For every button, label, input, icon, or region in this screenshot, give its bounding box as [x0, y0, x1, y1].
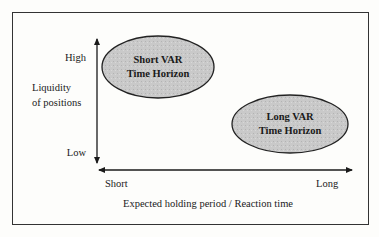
- x-axis-long-label: Long: [316, 178, 338, 190]
- y-axis-title-line1: Liquidity: [32, 82, 71, 94]
- y-axis-low-label: Low: [40, 147, 86, 159]
- long-var-line2: Time Horizon: [240, 124, 340, 138]
- short-var-line1: Short VAR: [108, 53, 208, 67]
- x-axis-title: Expected holding period / Reaction time: [123, 198, 293, 210]
- long-var-line1: Long VAR: [240, 110, 340, 124]
- short-var-label: Short VAR Time Horizon: [108, 53, 208, 81]
- y-axis-title-line2: of positions: [32, 97, 81, 109]
- y-axis-high-label: High: [40, 52, 86, 64]
- x-axis-short-label: Short: [105, 178, 128, 190]
- long-var-label: Long VAR Time Horizon: [240, 110, 340, 138]
- short-var-line2: Time Horizon: [108, 67, 208, 81]
